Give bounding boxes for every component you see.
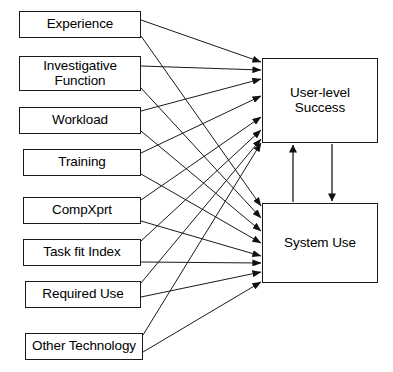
node-task-fit-index: Task fit Index [23,239,141,266]
node-user-level-success-label: User-level Success [263,86,377,115]
edge-compxprt-to-system-use [141,221,261,256]
edge-investigative-to-system-use [141,88,261,218]
node-other-technology: Other Technology [25,333,143,360]
predictor-edge-group [141,20,261,352]
node-required-use: Required Use [25,281,141,308]
node-compxprt: CompXprt [23,197,141,224]
research-model-diagram: ExperienceInvestigative FunctionWorkload… [0,0,393,372]
edge-required-use-to-user-level-success [141,139,261,283]
node-workload-label: Workload [52,113,108,128]
node-investigative-label: Investigative Function [43,59,117,88]
edge-training-to-user-level-success [141,96,261,153]
node-training-label: Training [58,155,105,170]
edge-investigative-to-user-level-success [141,66,261,70]
node-task-fit-index-label: Task fit Index [43,245,120,260]
node-system-use-label: System Use [284,236,356,251]
edge-other-technology-to-user-level-success [143,143,261,335]
edge-workload-to-user-level-success [141,79,261,111]
edge-compxprt-to-user-level-success [141,117,261,200]
node-experience: Experience [19,11,141,38]
node-system-use: System Use [262,203,378,283]
edge-experience-to-user-level-success [141,20,261,62]
node-other-technology-label: Other Technology [31,339,137,354]
node-workload: Workload [19,107,141,134]
node-experience-label: Experience [47,17,114,32]
node-required-use-label: Required Use [42,287,123,302]
node-user-level-success: User-level Success [262,58,378,143]
node-compxprt-label: CompXprt [52,203,112,218]
node-investigative: Investigative Function [19,56,141,91]
node-training: Training [23,149,141,176]
reciprocal-edge-group [293,144,332,202]
edge-training-to-system-use [141,174,261,243]
